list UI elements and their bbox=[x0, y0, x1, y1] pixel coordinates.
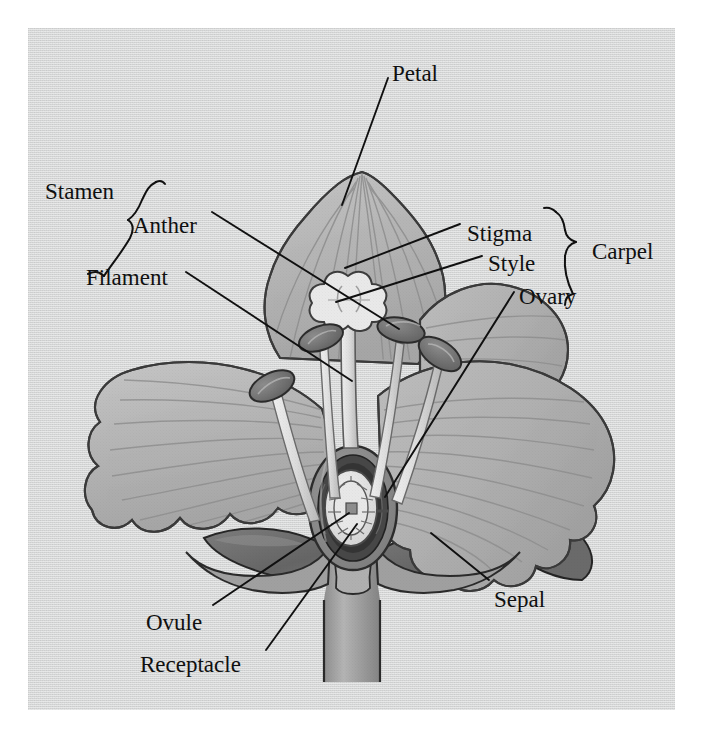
petal-leader bbox=[342, 78, 388, 205]
annotation-layer bbox=[0, 0, 701, 748]
label-style: Style bbox=[488, 252, 535, 275]
label-stamen: Stamen bbox=[45, 180, 114, 203]
label-petal: Petal bbox=[392, 62, 438, 85]
filament-leader bbox=[186, 272, 352, 381]
label-sepal: Sepal bbox=[494, 588, 545, 611]
ovule-leader bbox=[213, 513, 349, 605]
label-receptacle: Receptacle bbox=[140, 653, 241, 676]
label-ovary: Ovary bbox=[519, 285, 576, 308]
receptacle-leader bbox=[266, 524, 357, 650]
label-ovule: Ovule bbox=[146, 611, 202, 634]
label-filament: Filament bbox=[86, 266, 168, 289]
sepal-leader bbox=[431, 533, 489, 580]
stigma-leader bbox=[345, 224, 460, 268]
label-carpel: Carpel bbox=[592, 240, 653, 263]
label-anther: Anther bbox=[133, 214, 197, 237]
anther-leader bbox=[212, 212, 399, 329]
figure-canvas: Petal Stamen Anther Stigma Style Carpel … bbox=[0, 0, 701, 748]
label-stigma: Stigma bbox=[467, 222, 532, 245]
ovary-leader bbox=[385, 292, 514, 497]
